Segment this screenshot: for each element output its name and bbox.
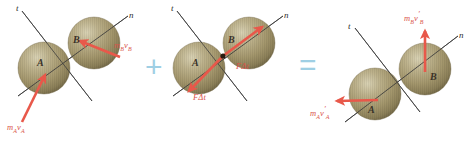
final-momentum-b-label: mBv′B (404, 11, 424, 25)
sphere-a-label: A (192, 58, 199, 68)
normal-axis-label: n (129, 11, 134, 20)
sphere-a-label: A (37, 58, 44, 68)
subscript-b: B (420, 19, 424, 25)
subscript-a: A (326, 114, 330, 120)
sphere-a-label: A (368, 105, 375, 115)
tangent-axis-label: t (348, 22, 351, 31)
delta-t-symbol: Δt (198, 92, 206, 102)
normal-axis-label: n (284, 11, 289, 20)
sphere-b-label: B (430, 72, 437, 82)
delta-t-symbol: Δt (241, 61, 249, 71)
normal-axis-label: n (459, 31, 464, 40)
impulse-a-label: FΔt (193, 93, 206, 102)
impulse-panel (173, 11, 283, 101)
sphere-b-label: B (228, 35, 235, 45)
diagram-canvas (0, 0, 473, 148)
momentum-b-label: mBvB (114, 41, 132, 52)
plus-operator: + (145, 52, 163, 82)
impulse-b-label: FΔt (236, 62, 249, 71)
final-momentum-arrow-a (337, 100, 378, 101)
subscript-a: A (21, 128, 25, 134)
final-momenta-panel (337, 28, 458, 122)
tangent-axis-label: t (16, 4, 19, 13)
subscript-b: B (128, 46, 132, 52)
sphere-b-label: B (73, 35, 80, 45)
final-momentum-a-label: mAv′A (310, 106, 330, 120)
initial-momenta-panel (18, 11, 128, 122)
tangent-axis-label: t (171, 4, 174, 13)
impact-momentum-diagram: t n A B mAvA mBvB + t n A B FΔt FΔt = t … (0, 0, 473, 148)
sphere-a (173, 42, 225, 94)
sphere-a (18, 42, 70, 94)
sphere-a (349, 68, 401, 120)
momentum-a-label: mAvA (7, 123, 25, 134)
equals-operator: = (299, 50, 317, 80)
contact-point-dot (220, 53, 225, 58)
